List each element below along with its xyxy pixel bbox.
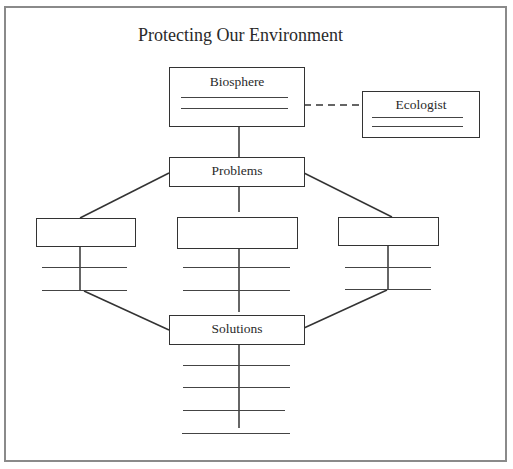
problem-1-blank-line-1	[42, 267, 127, 268]
ecologist-label: Ecologist	[363, 97, 479, 113]
biosphere-blank-line-1	[181, 97, 288, 98]
problem-2-blank-line-2	[183, 290, 290, 291]
solutions-blank-line-2	[183, 387, 290, 388]
problems-label: Problems	[170, 163, 304, 179]
biosphere-blank-line-2	[181, 108, 288, 109]
problem-3-blank-line-1	[345, 267, 431, 268]
ecologist-blank-line-2	[372, 126, 463, 127]
ecologist-node: Ecologist	[362, 91, 480, 138]
solutions-blank-line-4	[182, 433, 290, 434]
problem-2-blank-line-1	[183, 267, 290, 268]
biosphere-label: Biosphere	[170, 74, 304, 90]
solutions-blank-line-1	[183, 365, 290, 366]
solutions-label: Solutions	[170, 321, 304, 337]
problem-3-blank-line-2	[345, 289, 431, 290]
solutions-node: Solutions	[169, 315, 305, 345]
problem-box-3	[338, 217, 439, 246]
solutions-blank-line-3	[183, 410, 285, 411]
problem-1-blank-line-2	[42, 290, 127, 291]
ecologist-blank-line-1	[372, 117, 463, 118]
problem-box-2	[177, 217, 298, 249]
problems-node: Problems	[169, 157, 305, 187]
problem-box-1	[36, 218, 136, 247]
